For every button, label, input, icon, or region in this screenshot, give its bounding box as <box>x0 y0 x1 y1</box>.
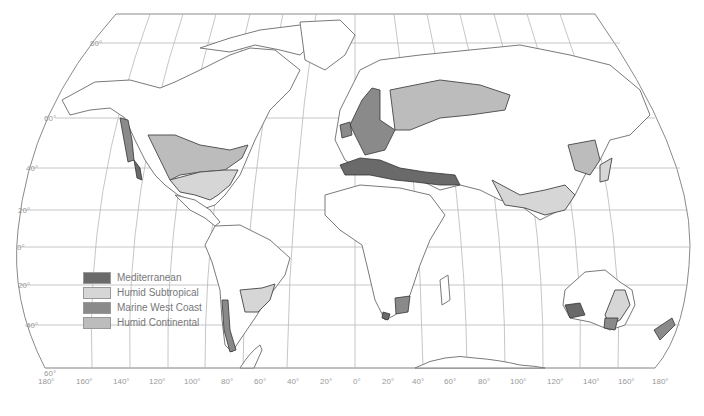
svg-text:20°: 20° <box>320 377 332 386</box>
legend-label: Humid Continental <box>117 317 199 328</box>
longitude-labels: 180° 160° 140° 120° 100° 80° 60° 40° 20°… <box>38 377 669 386</box>
svg-text:20°: 20° <box>18 281 30 290</box>
legend-label: Marine West Coast <box>117 302 202 313</box>
legend-item-mediterranean: Mediterranean <box>83 270 202 285</box>
antarctica <box>240 345 545 368</box>
svg-text:80°: 80° <box>221 377 233 386</box>
svg-text:40°: 40° <box>26 164 38 173</box>
svg-text:60°: 60° <box>44 114 56 123</box>
svg-text:60°: 60° <box>254 377 266 386</box>
africa <box>325 185 450 320</box>
svg-text:40°: 40° <box>412 377 424 386</box>
svg-text:160°: 160° <box>76 377 93 386</box>
world-map: 80° 60° 40° 20° 0° 20° 40° 60° 180° 160°… <box>0 0 704 416</box>
svg-text:80°: 80° <box>90 39 102 48</box>
svg-text:180°: 180° <box>38 377 55 386</box>
svg-text:100°: 100° <box>184 377 201 386</box>
legend-swatch <box>83 302 111 314</box>
south-america <box>205 225 290 352</box>
svg-text:180°: 180° <box>652 377 669 386</box>
svg-text:0°: 0° <box>17 243 25 252</box>
svg-text:120°: 120° <box>149 377 166 386</box>
svg-text:20°: 20° <box>18 206 30 215</box>
svg-text:60°: 60° <box>444 377 456 386</box>
legend-item-humid-subtropical: Humid Subtropical <box>83 285 202 300</box>
svg-text:40°: 40° <box>287 377 299 386</box>
svg-text:100°: 100° <box>510 377 527 386</box>
svg-text:40°: 40° <box>26 321 38 330</box>
svg-text:120°: 120° <box>547 377 564 386</box>
legend-label: Humid Subtropical <box>117 287 199 298</box>
svg-text:140°: 140° <box>583 377 600 386</box>
legend-swatch <box>83 287 111 299</box>
legend-label: Mediterranean <box>117 272 181 283</box>
svg-text:0°: 0° <box>353 377 361 386</box>
svg-text:160°: 160° <box>618 377 635 386</box>
legend-swatch <box>83 317 111 329</box>
legend-swatch <box>83 272 111 284</box>
legend-item-marine-west-coast: Marine West Coast <box>83 300 202 315</box>
svg-text:80°: 80° <box>478 377 490 386</box>
svg-text:140°: 140° <box>113 377 130 386</box>
map-legend: Mediterranean Humid Subtropical Marine W… <box>83 270 202 330</box>
svg-text:20°: 20° <box>382 377 394 386</box>
north-america <box>62 20 355 226</box>
legend-item-humid-continental: Humid Continental <box>83 315 202 330</box>
